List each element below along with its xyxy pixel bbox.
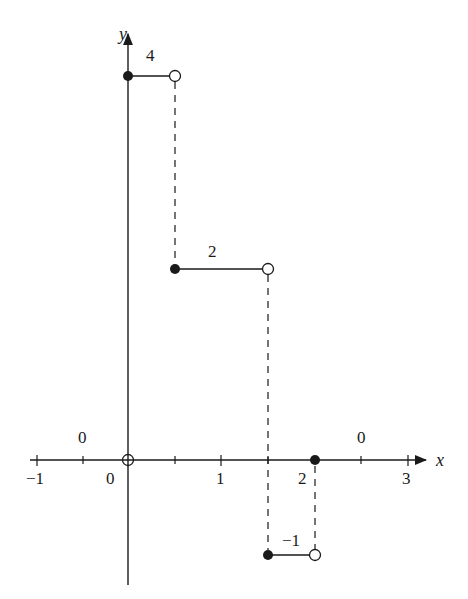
closed-point bbox=[310, 455, 320, 465]
y-axis-label: y bbox=[117, 24, 127, 44]
jump-lines bbox=[175, 82, 315, 550]
segment-label-left-zero: 0 bbox=[78, 428, 87, 447]
closed-point bbox=[170, 264, 180, 274]
chart-canvas: x y −1 0 1 2 3 bbox=[0, 0, 468, 599]
open-point bbox=[310, 550, 321, 561]
y-axis: y bbox=[117, 24, 128, 585]
segment-label-neg-one: −1 bbox=[282, 531, 300, 550]
x-axis: x bbox=[30, 450, 444, 470]
tick-label-3: 3 bbox=[402, 469, 411, 488]
tick-label-2: 2 bbox=[298, 469, 307, 488]
tick-label-0: 0 bbox=[106, 469, 115, 488]
segment-label-right-zero: 0 bbox=[357, 428, 366, 447]
x-axis-label: x bbox=[435, 450, 444, 470]
closed-point bbox=[263, 550, 273, 560]
segment-label-four: 4 bbox=[146, 46, 155, 65]
open-point bbox=[263, 264, 274, 275]
open-point bbox=[170, 71, 181, 82]
x-tick-labels: −1 0 1 2 3 bbox=[26, 469, 411, 488]
step-function-chart: x y −1 0 1 2 3 bbox=[0, 0, 468, 599]
segment-label-two: 2 bbox=[208, 242, 217, 261]
tick-label-neg1: −1 bbox=[26, 469, 44, 488]
tick-label-1: 1 bbox=[216, 469, 225, 488]
closed-point bbox=[123, 71, 133, 81]
